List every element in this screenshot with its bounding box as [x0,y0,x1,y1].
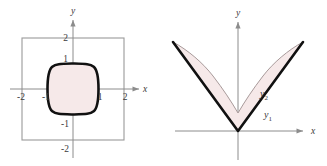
superellipse-fill [48,64,99,115]
y-tick-label-neg1: -1 [61,119,69,129]
x-axis-arrow [297,128,304,133]
x-axis-label: x [310,126,316,136]
curve-label-y1-sub: 1 [268,115,272,123]
y-tick-label-2: 2 [63,33,68,43]
x-axis-label: x [142,84,148,94]
x-axis-arrow [133,86,140,91]
y-axis-arrow [235,22,240,29]
curve-label-y2-sub: 2 [264,94,268,102]
y-axis-label: y [235,8,241,18]
y-tick-label-1: 1 [63,54,68,64]
x-tick-label-neg1: -1 [42,92,50,102]
y-axis-label: y [70,6,76,16]
absolute-value-svg: y2 y1 x y [163,0,327,166]
x-tick-label-2: 2 [123,92,128,102]
curve-label-y1: y1 [263,109,272,123]
superellipse-svg: 2 1 -1 -2 -2 -1 1 2 x y [0,0,163,166]
absolute-value-panel: y2 y1 x y [163,0,327,166]
y-axis-arrow [70,20,75,27]
x-tick-label-neg2: -2 [17,92,25,102]
x-tick-label-1: 1 [98,92,103,102]
y-tick-label-neg2: -2 [61,144,69,154]
figure-root: 2 1 -1 -2 -2 -1 1 2 x y [0,0,327,166]
superellipse-panel: 2 1 -1 -2 -2 -1 1 2 x y [0,0,163,166]
